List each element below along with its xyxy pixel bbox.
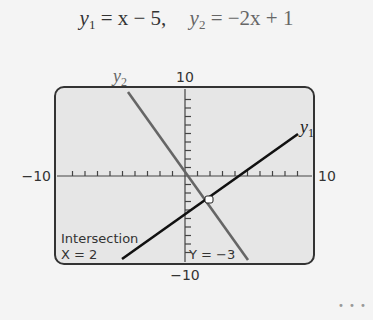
intersection-x-value: X = 2 <box>61 247 97 262</box>
xmin-label: −10 <box>21 168 51 184</box>
ymin-label: −10 <box>170 267 200 283</box>
y2-curve-label: y2 <box>111 66 127 89</box>
ymax-label: 10 <box>176 69 194 85</box>
intersection-marker <box>205 196 213 203</box>
more-dots-icon: • • • <box>338 300 367 311</box>
intersection-y-value: Y = −3 <box>188 247 235 262</box>
xmax-label: 10 <box>318 168 336 184</box>
intersection-title: Intersection <box>61 231 138 246</box>
graph-plot: 10 −10 −10 10 y2 y1 Intersection X = 2 Y… <box>0 0 373 320</box>
